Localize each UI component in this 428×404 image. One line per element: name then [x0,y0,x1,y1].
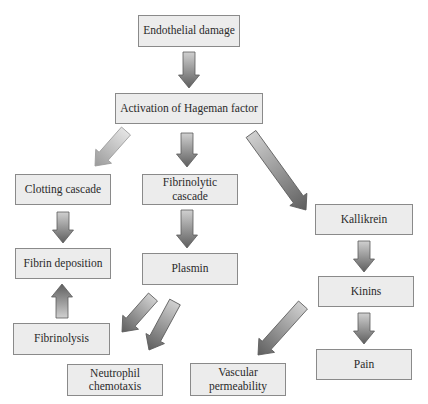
node-pain: Pain [316,349,412,380]
arrow-endothelial-to-hageman [179,52,200,88]
node-plasmin: Plasmin [142,253,238,285]
node-kallikrein: Kallikrein [315,204,413,235]
node-endothelial: Endothelial damage [138,15,240,47]
node-fibrin: Fibrin deposition [15,248,111,279]
arrow-kallikrein-to-kinins [354,241,375,272]
arrow-kinins-to-vascular [250,298,311,362]
arrow-kinins-to-pain [354,313,375,344]
arrow-hageman-to-clotting [87,124,134,173]
node-hageman: Activation of Hageman factor [115,93,263,124]
arrow-hageman-to-kallikrein [242,128,314,216]
node-fibrinolytic: Fibrinolytic cascade [142,174,238,205]
node-fibrinolysis: Fibrinolysis [13,323,110,355]
node-kinins: Kinins [318,276,414,307]
node-clotting: Clotting cascade [15,174,111,205]
arrow-clotting-to-fibrin [53,212,74,243]
arrow-fibrinolytic-to-plasmin [177,210,198,248]
node-neutrophil: Neutrophil chemotaxis [67,364,163,396]
arrow-hageman-to-fibrinolytic [177,133,198,167]
node-vascular: Vascular permeability [190,363,286,396]
arrow-fibrinolysis-to-fibrin [52,284,73,318]
